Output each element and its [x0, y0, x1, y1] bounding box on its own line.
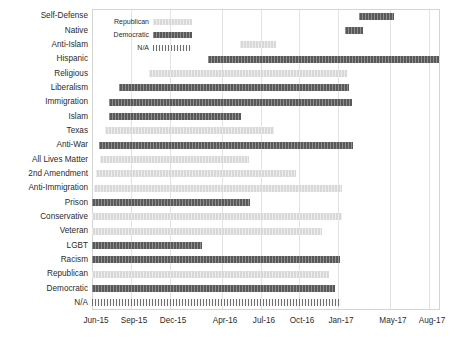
- y-axis-tick-label: Native: [0, 27, 88, 35]
- y-axis-tick-label: Anti-Islam: [0, 41, 88, 49]
- bar-series-layer: [92, 9, 440, 310]
- x-axis-tick-label: Aug-17: [419, 316, 445, 325]
- y-axis-tick-label: Immigration: [0, 98, 88, 106]
- x-axis-tick-label: Jul-16: [253, 316, 275, 325]
- y-axis-tick-label: Liberalism: [0, 84, 88, 92]
- legend-swatch-rep: [153, 19, 192, 25]
- y-axis-tick-label: 2nd Amendment: [0, 170, 88, 178]
- x-axis-tick-label: Sep-15: [121, 316, 147, 325]
- x-axis-tick-label: Jun-15: [83, 316, 108, 325]
- bar: [149, 70, 347, 77]
- x-axis-tick-label: Oct-16: [290, 316, 315, 325]
- y-axis-tick-label: Religious: [0, 70, 88, 78]
- y-axis-tick-label: Self-Defense: [0, 12, 88, 20]
- bar: [92, 199, 250, 206]
- legend-item: N/A: [96, 41, 192, 54]
- legend-swatch-dem: [153, 32, 192, 38]
- legend-swatch-na: [153, 45, 192, 51]
- bar: [109, 113, 241, 120]
- bar: [92, 213, 342, 220]
- bar: [92, 299, 341, 306]
- bar: [92, 271, 329, 278]
- bar: [96, 170, 296, 177]
- bar: [105, 127, 274, 134]
- y-axis-tick-label: Anti-Immigration: [0, 184, 88, 192]
- bar: [345, 27, 363, 34]
- y-axis-tick-label: All Lives Matter: [0, 156, 88, 164]
- bar: [92, 242, 202, 249]
- x-axis-tick-label: Apr-16: [213, 316, 238, 325]
- y-axis-tick-label: LGBT: [0, 242, 88, 250]
- bar: [109, 99, 352, 106]
- bar: [92, 228, 322, 235]
- bar: [92, 285, 335, 292]
- y-axis-tick-label: Veteran: [0, 227, 88, 235]
- bar: [92, 256, 340, 263]
- y-axis-tick-label: Prison: [0, 199, 88, 207]
- x-axis-tick-label: Dec-15: [160, 316, 186, 325]
- x-axis-labels: Jun-15Sep-15Dec-15Apr-16Jul-16Oct-16Jan-…: [92, 316, 440, 332]
- y-axis-tick-label: Hispanic: [0, 55, 88, 63]
- y-axis-labels: Self-DefenseNativeAnti-IslamHispanicReli…: [0, 9, 88, 310]
- gantt-chart: Self-DefenseNativeAnti-IslamHispanicReli…: [0, 0, 468, 353]
- bar: [94, 185, 342, 192]
- y-axis-tick-label: Republican: [0, 270, 88, 278]
- bar: [208, 56, 439, 63]
- x-axis-tick-label: Jan-17: [328, 316, 353, 325]
- legend-item: Republican: [96, 15, 192, 28]
- y-axis-tick-label: Conservative: [0, 213, 88, 221]
- bar: [100, 156, 249, 163]
- y-axis-tick-label: Racism: [0, 256, 88, 264]
- y-axis-tick-label: Islam: [0, 113, 88, 121]
- legend-item-label: Democratic: [114, 31, 149, 38]
- y-axis-tick-label: Democratic: [0, 285, 88, 293]
- x-axis-tick-label: May-17: [379, 316, 406, 325]
- y-axis-tick-label: N/A: [0, 299, 88, 307]
- bar: [240, 41, 276, 48]
- chart-legend: RepublicanDemocraticN/A: [96, 15, 192, 54]
- y-axis-tick-label: Anti-War: [0, 141, 88, 149]
- legend-item-label: Republican: [114, 18, 149, 25]
- bar: [99, 142, 353, 149]
- bar: [119, 84, 349, 91]
- legend-item: Democratic: [96, 28, 192, 41]
- legend-item-label: N/A: [137, 44, 149, 51]
- bar: [359, 13, 394, 20]
- y-axis-tick-label: Texas: [0, 127, 88, 135]
